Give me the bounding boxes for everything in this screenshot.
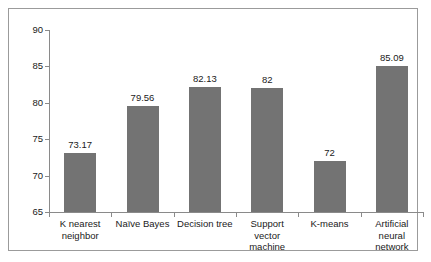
x-axis-tick-mark [423,213,424,217]
y-axis-tick-label: 85 [9,62,43,72]
y-axis-tick-label: 80 [9,98,43,108]
x-axis-category-label-line: neural [361,230,423,242]
x-axis-category-label-line: Artificial [361,218,423,230]
bar-value-label: 79.56 [111,93,173,103]
x-axis-category-label-line: neighbor [49,230,111,242]
bar-value-label: 82 [236,75,298,85]
x-axis-category-label-line: vector [236,230,298,242]
y-axis-tick-mark [45,176,49,177]
x-axis-category-label: Artificialneuralnetwork [361,218,423,253]
y-axis-tick-mark [45,30,49,31]
y-axis-tick-label: 70 [9,171,43,181]
x-axis-tick-mark [174,213,175,217]
bar-value-label: 72 [298,148,360,158]
bar-value-label: 82.13 [174,74,236,84]
bar-chart-figure: 657075808590 73.1779.5682.13827285.09 K … [0,0,431,262]
bar [376,66,408,212]
y-axis-tick-label: 90 [9,25,43,35]
bar [64,153,96,212]
y-axis-tick-label: 65 [9,207,43,217]
x-axis-category-label-line: machine [236,241,298,253]
x-axis-category-label-line: Support [236,218,298,230]
x-axis-category-label-line: Decision tree [174,218,236,230]
y-axis-tick-mark [45,103,49,104]
bar [127,106,159,212]
y-axis-tick-label: 75 [9,134,43,144]
x-axis-category-label: Supportvectormachine [236,218,298,253]
x-axis-category-label: K-means [298,218,360,230]
bar-value-label: 85.09 [361,53,423,63]
x-axis-category-label-line: K nearest [49,218,111,230]
bar-value-label: 73.17 [49,140,111,150]
x-axis-category-label: Naïve Bayes [111,218,173,230]
x-axis-tick-mark [111,213,112,217]
x-axis-category-label: Decision tree [174,218,236,230]
x-axis-tick-mark [236,213,237,217]
x-axis-category-label: K nearestneighbor [49,218,111,241]
figure-border: 657075808590 73.1779.5682.13827285.09 K … [8,8,418,251]
x-axis-tick-mark [298,213,299,217]
bar [189,87,221,212]
y-axis-line [49,30,50,213]
x-axis-tick-mark [361,213,362,217]
x-axis-category-label-line: K-means [298,218,360,230]
bar [314,161,346,212]
x-axis-category-label-line: Naïve Bayes [111,218,173,230]
x-axis-category-label-line: network [361,241,423,253]
y-axis-tick-mark [45,66,49,67]
x-axis-tick-mark [49,213,50,217]
bar [251,88,283,212]
